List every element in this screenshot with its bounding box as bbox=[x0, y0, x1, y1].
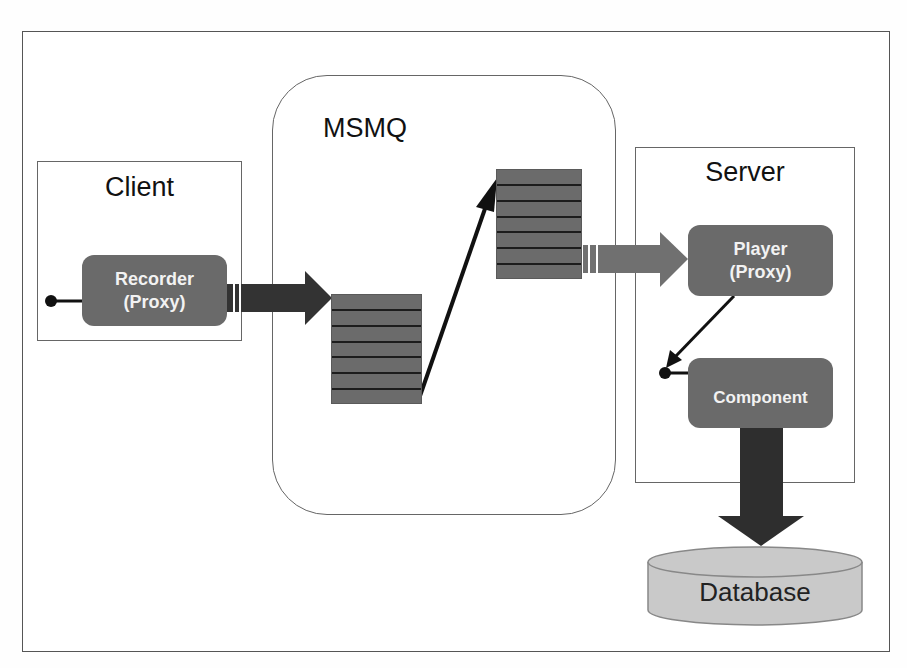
connectors-layer bbox=[0, 0, 907, 668]
queue-to-queue-arrow bbox=[420, 178, 497, 396]
queue-slot-divider bbox=[497, 184, 581, 186]
queue-slot-divider bbox=[332, 325, 421, 327]
recorder-proxy-node: Recorder (Proxy) bbox=[82, 255, 227, 326]
queue-slot-divider bbox=[497, 231, 581, 233]
queue-to-player-arrow bbox=[583, 232, 688, 287]
queue-slot-divider bbox=[332, 372, 421, 374]
queue-slot-divider bbox=[332, 309, 421, 311]
recorder-to-queue-arrow bbox=[227, 271, 332, 325]
component-node: Component bbox=[688, 358, 833, 428]
queue-slot-divider bbox=[497, 247, 581, 249]
player-proxy-label: (Proxy) bbox=[729, 261, 791, 284]
recorder-label: Recorder bbox=[115, 268, 194, 291]
queue-slot-divider bbox=[332, 341, 421, 343]
player-label: Player bbox=[733, 238, 787, 261]
component-to-database-arrow bbox=[718, 428, 804, 546]
component-label: Component bbox=[713, 387, 807, 408]
queue-slot-divider bbox=[332, 388, 421, 390]
recorder-proxy-label: (Proxy) bbox=[123, 291, 185, 314]
outbound-queue bbox=[496, 169, 582, 279]
player-proxy-node: Player (Proxy) bbox=[688, 225, 833, 296]
queue-slot-divider bbox=[497, 200, 581, 202]
database-label: Database bbox=[648, 577, 862, 608]
queue-slot-divider bbox=[497, 263, 581, 265]
queue-slot-divider bbox=[497, 216, 581, 218]
queue-slot-divider bbox=[332, 356, 421, 358]
inbound-queue bbox=[331, 294, 422, 404]
